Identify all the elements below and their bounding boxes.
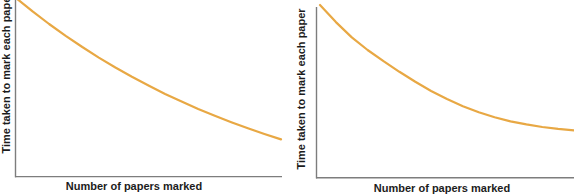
figure-canvas: Time taken to mark each paper Number of … — [0, 0, 574, 196]
x-axis-label: Number of papers marked — [66, 180, 202, 193]
chart-right-plot-area — [290, 0, 574, 196]
curve-marking-time — [16, 0, 281, 139]
curve-marking-time — [320, 5, 574, 130]
y-axis-label: Time taken to mark each paper — [0, 0, 13, 154]
chart-left: Time taken to mark each paper Number of … — [0, 0, 290, 196]
chart-right: Time taken to mark each paper Number of … — [290, 0, 574, 196]
chart-left-plot-area — [0, 0, 290, 196]
x-axis-label: Number of papers marked — [374, 182, 510, 195]
y-axis-label: Time taken to mark each paper — [295, 8, 308, 169]
